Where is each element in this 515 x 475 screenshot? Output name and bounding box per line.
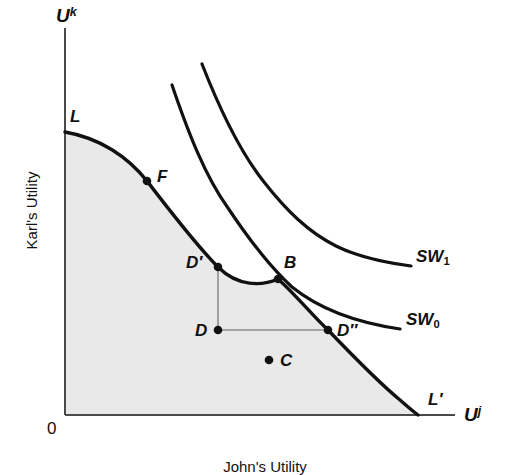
y-axis-symbol: Uk — [56, 6, 77, 25]
point-C — [265, 356, 274, 365]
x-axis-superscript: j — [478, 404, 481, 418]
point-label-D-double-prime: D″ — [337, 322, 357, 339]
shaded-feasible-region — [65, 132, 418, 415]
point-B — [274, 275, 283, 284]
sw0-subscript: 0 — [433, 318, 439, 330]
sw1-curve — [202, 64, 411, 266]
point-D-double-prime — [324, 326, 333, 335]
point-F — [143, 177, 152, 186]
point-label-F: F — [157, 168, 167, 185]
point-label-C: C — [280, 352, 292, 369]
point-D — [214, 326, 223, 335]
sw1-label: SW1 — [416, 248, 450, 267]
point-label-B: B — [284, 254, 296, 271]
origin-label: 0 — [47, 420, 56, 437]
point-label-D: D — [195, 322, 207, 339]
x-axis-title: John's Utility — [185, 458, 345, 475]
sw1-subscript: 1 — [443, 255, 449, 267]
x-axis-symbol: Uj — [464, 405, 481, 424]
y-axis-superscript: k — [70, 5, 77, 19]
sw0-label: SW0 — [406, 311, 440, 330]
point-label-L: L — [70, 108, 80, 125]
point-D-prime — [214, 263, 223, 272]
point-label-L-prime: L′ — [428, 391, 442, 408]
point-label-D-prime: D′ — [186, 254, 202, 271]
y-axis-title: Karl's Utility — [23, 136, 40, 286]
